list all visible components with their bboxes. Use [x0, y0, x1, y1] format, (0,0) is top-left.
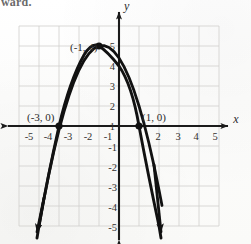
y-tick-3: 3 — [110, 81, 115, 92]
parabola-arrow-left — [37, 198, 44, 232]
y-tick-neg5: -5 — [108, 222, 117, 233]
y-tick-neg2: -2 — [108, 162, 117, 173]
x-tick-2: 2 — [155, 131, 160, 142]
x-tick-5: 5 — [212, 131, 217, 142]
parabola-curve-precise — [39, 46, 162, 226]
y-tick-neg4: -4 — [108, 202, 117, 213]
x-tick-neg1: -1 — [104, 131, 113, 142]
y-tick-neg3: -3 — [108, 182, 117, 193]
x-tick-neg2: -2 — [84, 131, 93, 142]
x-tick-labels: -5 -4 -3 -2 -1 2 3 4 5 — [25, 131, 218, 142]
x-intercept-left-label: (-3, 0) — [27, 111, 55, 124]
x-tick-neg4: -4 — [44, 131, 53, 142]
x-axis-label: x — [232, 112, 239, 126]
x-intercept-right-label: (1, 0) — [142, 111, 166, 124]
y-axis-label: y — [123, 0, 130, 13]
x-tick-neg5: -5 — [25, 131, 34, 142]
x-tick-4: 4 — [193, 131, 199, 142]
y-tick-neg1: -1 — [108, 142, 117, 153]
x-intercept-right-point — [135, 122, 142, 129]
x-tick-3: 3 — [175, 131, 180, 142]
parabola-figure: x y 5 4 3 2 1 -1 -2 -3 -4 -5 -5 -4 -3 -2… — [0, 0, 251, 244]
y-tick-2: 2 — [110, 101, 115, 112]
x-tick-neg3: -3 — [64, 131, 73, 142]
vertex-label: (-1, 4) — [70, 41, 98, 54]
x-intercept-left-point — [55, 122, 62, 129]
figure-page: ward. — [0, 0, 251, 244]
